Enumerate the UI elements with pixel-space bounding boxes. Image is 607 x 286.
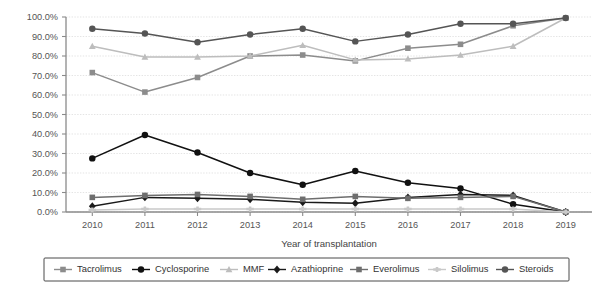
x-tick-label: 2012 [187,220,207,230]
y-tick-label: 30.0% [32,149,58,159]
data-point [510,43,517,49]
legend-item-azathioprine[interactable]: Azathioprine [268,263,343,274]
legend-label: Silolimus [451,263,489,274]
data-point [352,199,359,207]
series-tacrolimus [90,15,569,95]
data-point [141,207,148,212]
data-point [405,45,411,51]
data-point [510,201,516,207]
series-steroids [89,15,569,46]
legend-marker [356,267,362,273]
x-tick-label: 2015 [345,220,365,230]
data-point [352,168,358,174]
data-point [404,207,411,212]
data-point [247,31,253,37]
x-tick-label: 2019 [555,220,575,230]
data-point [457,207,464,212]
data-point [90,70,96,76]
legend-item-cyclosporine[interactable]: Cyclosporine [132,263,209,274]
data-point [458,195,464,201]
y-tick-label: 100.0% [27,12,58,22]
series-line [92,135,565,212]
legend-label: Everolimus [373,263,420,274]
data-point [142,30,148,36]
data-point [142,193,148,199]
data-point [142,132,148,138]
y-tick-label: 70.0% [32,71,58,81]
legend-label: Azathioprine [291,263,343,274]
x-tick-label: 2016 [398,220,418,230]
legend-marker [60,267,66,273]
data-point [352,38,358,44]
x-tick-label: 2014 [292,220,312,230]
legend-marker [274,266,281,274]
data-point [89,43,96,49]
y-tick-label: 60.0% [32,90,58,100]
data-point [247,194,253,200]
legend-item-everolimus[interactable]: Everolimus [350,263,420,274]
data-point [246,207,253,212]
y-axis-tick-labels: 0.0%10.0%20.0%30.0%40.0%50.0%60.0%70.0%8… [27,12,58,217]
legend: TacrolimusCyclosporineMMFAzathioprineEve… [54,263,554,274]
x-tick-label: 2018 [503,220,523,230]
series-line [92,18,565,42]
legend-item-tacrolimus[interactable]: Tacrolimus [54,263,122,274]
data-point [509,207,516,212]
series-silolimus [89,207,570,215]
x-tick-label: 2017 [450,220,470,230]
legend-item-silolimus[interactable]: Silolimus [428,263,489,274]
data-point [299,42,306,48]
legend-label: MMF [243,263,265,274]
x-axis-title: Year of transplantation [281,238,377,249]
series-layer [89,15,570,216]
data-point [299,181,305,187]
data-point [90,195,96,201]
legend-marker [502,266,508,272]
data-point [89,155,95,161]
legend-item-mmf[interactable]: MMF [220,263,265,274]
data-point [142,89,148,95]
y-tick-label: 10.0% [32,188,58,198]
legend-marker [433,267,440,272]
x-tick-label: 2010 [82,220,102,230]
data-point [510,21,516,27]
data-point [299,207,306,212]
data-point [300,52,306,58]
data-point [458,42,464,48]
y-tick-label: 50.0% [32,110,58,120]
data-point [194,39,200,45]
data-point [247,170,253,176]
data-point [195,192,201,198]
data-point [510,194,516,200]
data-point [299,25,305,31]
data-point [300,197,306,203]
data-point [353,194,359,200]
y-tick-label: 90.0% [32,32,58,42]
series-mmf [89,15,569,63]
data-point [405,180,411,186]
legend-label: Cyclosporine [155,263,209,274]
legend-label: Steroids [519,263,554,274]
legend-marker [138,266,144,272]
y-tick-label: 20.0% [32,168,58,178]
chart-canvas: 0.0%10.0%20.0%30.0%40.0%50.0%60.0%70.0%8… [0,0,607,286]
y-tick-label: 80.0% [32,51,58,61]
series-line [92,18,565,92]
y-tick-label: 40.0% [32,129,58,139]
data-point [194,149,200,155]
data-point [352,207,359,212]
data-point [194,207,201,212]
x-tick-label: 2013 [240,220,260,230]
legend-label: Tacrolimus [77,263,122,274]
data-point [405,196,411,202]
data-point [562,15,568,21]
data-point [457,21,463,27]
x-tick-label: 2011 [135,220,155,230]
y-tick-label: 0.0% [37,207,58,217]
legend-item-steroids[interactable]: Steroids [496,263,554,274]
line-chart: 0.0%10.0%20.0%30.0%40.0%50.0%60.0%70.0%8… [0,0,607,286]
data-point [195,75,201,81]
x-axis-tick-labels: 2010201120122013201420152016201720182019 [82,220,576,230]
data-point [89,25,95,31]
data-point [405,31,411,37]
